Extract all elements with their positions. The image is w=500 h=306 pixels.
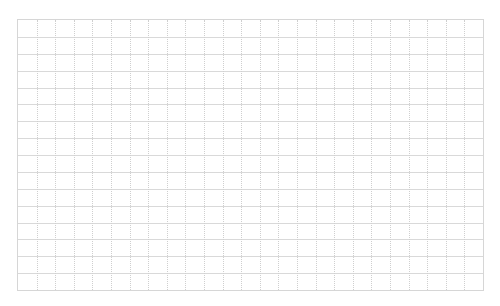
grid-column-line (204, 20, 205, 290)
grid-column-line (464, 20, 465, 290)
grid-row-line (18, 121, 483, 122)
grid-column-line (409, 20, 410, 290)
grid-row-line (18, 256, 483, 257)
grid-column-line (37, 20, 38, 290)
grid-column-line (297, 20, 298, 290)
grid-column-line (260, 20, 261, 290)
grid-column-line (334, 20, 335, 290)
grid-column-line (241, 20, 242, 290)
grid-row-line (18, 273, 483, 274)
grid-column-line (55, 20, 56, 290)
grid-column-line (130, 20, 131, 290)
grid-column-line (353, 20, 354, 290)
grid-column-line (185, 20, 186, 290)
grid-column-line (111, 20, 112, 290)
grid-paper (17, 19, 484, 291)
grid-row-line (18, 88, 483, 89)
grid-row-line (18, 54, 483, 55)
grid-row-line (18, 155, 483, 156)
grid-row-line (18, 189, 483, 190)
grid-column-line (167, 20, 168, 290)
grid-row-line (18, 104, 483, 105)
grid-column-line (74, 20, 75, 290)
grid-column-line (92, 20, 93, 290)
grid-column-line (446, 20, 447, 290)
grid-row-line (18, 37, 483, 38)
grid-row-line (18, 71, 483, 72)
grid-row-line (18, 206, 483, 207)
grid-column-line (427, 20, 428, 290)
grid-column-line (223, 20, 224, 290)
grid-column-line (390, 20, 391, 290)
grid-column-line (148, 20, 149, 290)
grid-column-line (316, 20, 317, 290)
grid-column-line (371, 20, 372, 290)
grid-row-line (18, 172, 483, 173)
grid-row-line (18, 223, 483, 224)
grid-row-line (18, 239, 483, 240)
grid-column-line (278, 20, 279, 290)
grid-row-line (18, 138, 483, 139)
